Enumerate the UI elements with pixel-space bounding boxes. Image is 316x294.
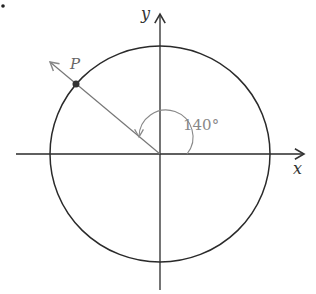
- unit-circle-diagram: P y x 140°: [0, 0, 316, 294]
- y-axis-label: y: [141, 4, 150, 23]
- angle-label: 140°: [183, 116, 219, 134]
- diagram-canvas: [0, 0, 316, 294]
- bullet-dot: [1, 4, 5, 8]
- terminal-ray: [50, 62, 160, 154]
- x-axis-label: x: [293, 159, 302, 178]
- point-p: [73, 81, 80, 88]
- point-label: P: [70, 55, 80, 73]
